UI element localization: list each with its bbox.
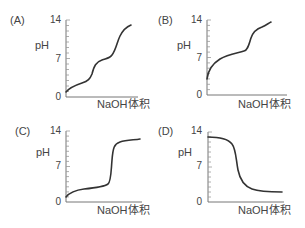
- chart-plot-area: [0, 114, 152, 228]
- chart-panel-c: (C) pH 14 7 0 NaOH体积: [0, 114, 152, 228]
- titration-curve: [207, 22, 271, 79]
- titration-curve: [66, 139, 140, 197]
- chart-panel-d: (D) pH 14 7 0 NaOH体积: [152, 114, 304, 228]
- y-axis: [66, 20, 70, 97]
- y-axis: [208, 132, 212, 202]
- y-axis: [66, 131, 70, 202]
- chart-panel-a: (A) pH 14 7 0 NaOH体积: [0, 0, 152, 114]
- titration-curve: [208, 137, 282, 192]
- chart-plot-area: [152, 0, 304, 114]
- titration-curves-figure: (A) pH 14 7 0 NaOH体积 (B) pH 14 7 0 N: [0, 0, 305, 228]
- y-axis: [207, 20, 211, 95]
- chart-plot-area: [0, 0, 152, 114]
- chart-panel-b: (B) pH 14 7 0 NaOH体积: [152, 0, 304, 114]
- chart-plot-area: [152, 114, 304, 228]
- titration-curve: [66, 25, 131, 92]
